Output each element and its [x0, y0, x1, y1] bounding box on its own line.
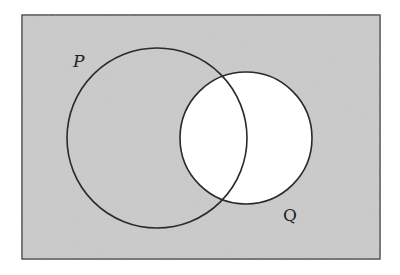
venn-diagram: P Q — [0, 0, 400, 275]
set-q-label: Q — [283, 205, 297, 225]
set-p-label: P — [72, 51, 85, 71]
